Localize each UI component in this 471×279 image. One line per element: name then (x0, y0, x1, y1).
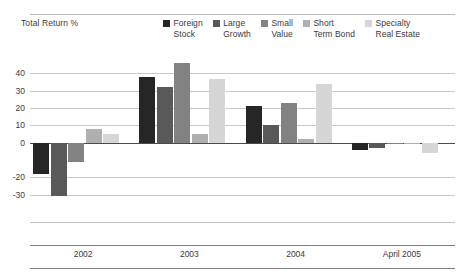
y-axis-tick-label: 30 (16, 86, 25, 96)
legend-item-label: Small Value (271, 18, 293, 39)
bar (174, 63, 190, 143)
legend-item: Short Term Bond (303, 18, 355, 39)
legend-item: Foreign Stock (163, 18, 203, 39)
legend-item-label: Short Term Bond (313, 18, 355, 39)
bar (103, 134, 119, 143)
axis-divider-middle (30, 245, 455, 246)
bar (404, 143, 420, 144)
gridline (30, 108, 455, 109)
bar (209, 79, 225, 143)
y-axis-tick-label: 0 (20, 138, 25, 148)
legend-item: Large Growth (213, 18, 251, 39)
y-axis-title: Total Return % (21, 18, 78, 28)
gridline (30, 177, 455, 178)
bar (246, 106, 262, 142)
axis-divider-lower (30, 268, 455, 269)
legend-item-label: Foreign Stock (174, 18, 203, 39)
bar (33, 143, 49, 174)
x-axis-tick-label: 2004 (286, 249, 305, 259)
gridline (30, 91, 455, 92)
bar (316, 84, 332, 143)
bar (387, 143, 403, 145)
legend-swatch-icon (163, 20, 170, 27)
bar (139, 77, 155, 143)
legend-item-label: Large Growth (223, 18, 251, 39)
legend-swatch-icon (261, 20, 268, 27)
bar (263, 125, 279, 142)
legend-item-label: Specialty Real Estate (375, 18, 420, 39)
legend-swatch-icon (213, 20, 220, 27)
legend-swatch-icon (365, 20, 372, 27)
legend-item: Specialty Real Estate (365, 18, 420, 39)
plot-area: 403020100-20-30 (30, 56, 455, 212)
gridline (30, 125, 455, 126)
x-axis-tick-label: 2002 (74, 249, 93, 259)
bar (68, 143, 84, 162)
bar (298, 139, 314, 142)
bar (369, 143, 385, 148)
chart-container: Total Return % Foreign StockLarge Growth… (0, 0, 471, 279)
legend-swatch-icon (303, 20, 310, 27)
bar (352, 143, 368, 150)
bar (157, 87, 173, 142)
gridline (30, 73, 455, 74)
y-axis-tick-label: 40 (16, 68, 25, 78)
y-axis-tick-label: -30 (13, 190, 25, 200)
bar (422, 143, 438, 153)
bar (192, 134, 208, 143)
chart-legend: Foreign StockLarge GrowthSmall ValueShor… (163, 18, 420, 39)
x-axis-tick-label: 2003 (180, 249, 199, 259)
x-axis-tick-label: April 2005 (383, 249, 421, 259)
bar (281, 103, 297, 143)
header-divider (30, 14, 455, 15)
axis-divider-upper (30, 222, 455, 223)
y-axis-tick-label: -20 (13, 172, 25, 182)
bar (51, 143, 67, 197)
y-axis-tick-label: 20 (16, 103, 25, 113)
gridline (30, 195, 455, 196)
x-axis-labels: 200220032004April 2005 (30, 249, 455, 267)
y-axis-tick-label: 10 (16, 120, 25, 130)
bar (86, 129, 102, 143)
legend-item: Small Value (261, 18, 293, 39)
